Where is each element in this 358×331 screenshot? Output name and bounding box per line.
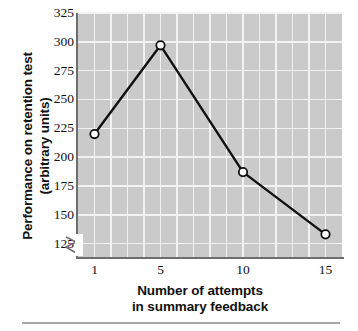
x-axis-tick-label: 10 — [236, 262, 250, 278]
y-axis-tick-label: 200 — [32, 149, 74, 165]
series-line — [95, 45, 326, 234]
chart-figure: Performance on retention test (arbitrary… — [0, 0, 358, 331]
data-point-marker — [156, 41, 164, 49]
y-axis-tick-label: 150 — [32, 207, 74, 223]
y-axis-tick-label: 250 — [32, 91, 74, 107]
y-axis-tick-label: 175 — [32, 178, 74, 194]
footer-divider — [22, 322, 340, 324]
data-point-marker — [90, 130, 98, 138]
y-axis-tick-label: 225 — [32, 120, 74, 136]
y-axis-tick-label: 300 — [32, 34, 74, 50]
x-axis-tick-labels: 151015 — [78, 262, 342, 280]
data-point-marker — [321, 230, 329, 238]
x-axis-tick-label: 5 — [157, 262, 164, 278]
y-axis-tick-labels: 325300275250225200175150125 — [30, 0, 74, 331]
x-axis-tick-label: 15 — [319, 262, 333, 278]
x-axis-tick-label: 1 — [91, 262, 98, 278]
x-axis-title-line2: in summary feedback — [60, 299, 340, 315]
x-axis-title-line1: Number of attempts — [60, 283, 340, 299]
data-series-layer — [78, 13, 342, 258]
y-axis-tick-label: 275 — [32, 63, 74, 79]
y-axis-tick-label: 325 — [32, 5, 74, 21]
x-axis-title: Number of attempts in summary feedback — [60, 283, 340, 315]
data-point-marker — [239, 168, 247, 176]
